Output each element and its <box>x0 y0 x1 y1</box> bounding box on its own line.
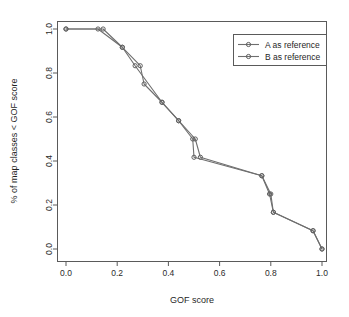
x-tick-label: 0.8 <box>265 268 277 278</box>
chart-legend: A as referenceB as reference <box>234 35 327 66</box>
x-tick-label: 0.6 <box>214 268 226 278</box>
y-axis-title: % of map classes < GOF score <box>9 79 19 204</box>
y-tick-label: 0.2 <box>44 199 54 211</box>
y-tick-label: 0.0 <box>44 243 54 255</box>
x-tick-label: 0.2 <box>111 268 123 278</box>
y-tick-label: 0.4 <box>44 155 54 167</box>
x-tick-label: 0.4 <box>162 268 174 278</box>
legend-item-label: B as reference <box>265 52 321 62</box>
y-tick-label: 0.6 <box>44 111 54 123</box>
x-tick-label: 0.0 <box>60 268 72 278</box>
chart-figure: 0.00.20.40.60.81.0 0.00.20.40.60.81.0 GO… <box>0 0 349 317</box>
y-tick-label: 1.0 <box>44 23 54 35</box>
gof-score-line-chart: 0.00.20.40.60.81.0 0.00.20.40.60.81.0 GO… <box>0 0 349 317</box>
y-tick-label: 0.8 <box>44 67 54 79</box>
x-tick-label: 1.0 <box>316 268 328 278</box>
legend-item-label: A as reference <box>265 40 320 50</box>
x-axis-title: GOF score <box>170 295 214 305</box>
